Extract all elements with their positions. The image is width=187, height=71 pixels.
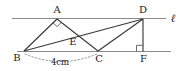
vertex-label-b: B	[13, 52, 20, 63]
figure-canvas: A B C D E F ℓ 4cm	[0, 0, 187, 71]
vertex-label-a: A	[52, 4, 61, 15]
segment-bd	[24, 19, 143, 51]
vertex-label-f: F	[140, 53, 147, 64]
vertex-label-d: D	[139, 4, 147, 15]
measure-label-bc: 4cm	[51, 57, 69, 67]
line-label-ell: ℓ	[171, 12, 176, 25]
segment-ac	[57, 19, 98, 51]
vertex-label-e: E	[69, 36, 76, 47]
geometry-figure: A B C D E F ℓ 4cm	[0, 0, 187, 71]
vertex-label-c: C	[95, 53, 103, 64]
